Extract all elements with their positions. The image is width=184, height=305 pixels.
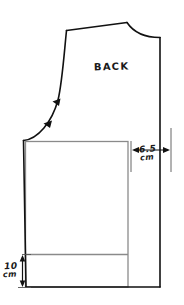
height-arrow-top-icon (20, 255, 26, 262)
shoulder-seam-line (67, 23, 128, 31)
height-dimension-unit: cm (3, 271, 17, 280)
width-arrow-right-icon (163, 147, 170, 153)
overlay-block (26, 142, 129, 288)
armhole-notch-arrows (44, 99, 61, 129)
overlay-rectangle (26, 142, 129, 288)
height-arrow-bottom-icon (20, 281, 26, 288)
height-dimension (18, 255, 31, 288)
width-dimension-unit: cm (140, 154, 155, 163)
piece-name-label: BACK (94, 61, 130, 72)
neckline-curve (127, 23, 160, 38)
pattern-diagram-root: BACK 6.5 cm 10 cm (0, 0, 184, 305)
